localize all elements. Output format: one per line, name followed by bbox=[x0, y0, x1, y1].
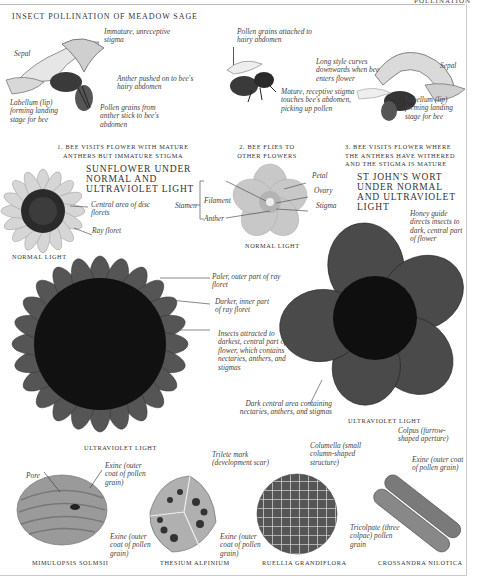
stjohns-heading: ST JOHN'S WORT UNDER NORMAL AND ULTRAVIO… bbox=[357, 172, 467, 212]
label-mimulopsis-pore: Pore bbox=[26, 472, 40, 480]
pollen-crossandra-caption: CROSSANDRA NILOTICA bbox=[378, 559, 463, 568]
label-thesium-exine: Exine (outer coat of pollen grain) bbox=[110, 533, 155, 558]
label-ruellia-exine: Exine (outer coat of pollen grain) bbox=[220, 533, 265, 558]
label-crossandra-tricolpate: Tricolpate (three colpae) pollen grain bbox=[350, 524, 400, 549]
label-crossandra-exine: Exine (outer coat of pollen grain) bbox=[412, 456, 467, 473]
bottom-rule bbox=[0, 575, 467, 576]
pollen-ruellia-image bbox=[255, 472, 339, 556]
pollen-thesium-caption: THESIUM ALPINIUM bbox=[160, 559, 230, 568]
label-labellum-3: Labellum (lip) forming landing stage for… bbox=[405, 96, 455, 121]
sunflower-uv-caption: ULTRAVIOLET LIGHT bbox=[84, 444, 157, 453]
label-paler-ray: Paler, outer part of ray floret bbox=[212, 273, 282, 290]
label-mature-stigma: Mature, receptive stigma touches bee's a… bbox=[281, 88, 356, 113]
label-anther: Anther bbox=[204, 215, 224, 223]
pollen-mimulopsis-caption: MIMULOPSIS SOLMSII bbox=[32, 559, 108, 568]
label-anther-pushed: Anther pushed on to bee's hairy abdomen bbox=[117, 75, 197, 92]
label-sepal-1: Sepal bbox=[14, 50, 30, 58]
label-ray-floret: Ray floret bbox=[92, 227, 121, 235]
label-darker-ray: Darker, inner part of ray floret bbox=[215, 298, 275, 315]
label-pollen-attached: Pollen grains attached to hairy abdomen bbox=[237, 28, 317, 45]
label-immature-stigma: Immature, unreceptive stigma bbox=[104, 28, 184, 45]
label-dark-central-area: Dark central area containing nectaries, … bbox=[224, 400, 332, 417]
caption-step-3: 3. BEE VISITS FLOWER WHERE THE ANTHERS H… bbox=[345, 143, 467, 169]
leader-pollen-attached bbox=[233, 47, 234, 65]
label-long-style: Long style curves downwards when bee ent… bbox=[316, 58, 396, 83]
label-insects-attracted: Insects attracted to darkest, central pa… bbox=[218, 330, 288, 372]
label-thesium-trilete: Trilete mark (development scar) bbox=[212, 451, 282, 468]
stjohns-uv-caption: ULTRAVIOLET LIGHT bbox=[348, 417, 421, 426]
caption-step-2: 2. BEE FLIES TO OTHER FLOWERS bbox=[232, 143, 302, 160]
label-crossandra-colpus: Colpus (furrow-shaped aperture) bbox=[398, 427, 458, 444]
label-labellum-1: Labellum (lip) forming landing stage for… bbox=[10, 99, 60, 124]
section-title: INSECT POLLINATION OF MEADOW SAGE bbox=[12, 12, 198, 21]
label-ovary: Ovary bbox=[314, 187, 332, 195]
label-sepal-3: Sepal bbox=[440, 62, 456, 70]
label-petal: Petal bbox=[312, 172, 328, 180]
label-pollen-grains-stick: Pollen grains from anther stick to bee's… bbox=[100, 104, 170, 129]
label-stigma: Stigma bbox=[316, 202, 337, 210]
label-stamen: Stamen bbox=[175, 202, 197, 210]
label-ruellia-columella: Columella (small column-shaped structure… bbox=[310, 442, 380, 467]
top-rule bbox=[0, 4, 465, 5]
mimulopsis-leaders bbox=[40, 470, 110, 500]
label-disc-florets: Central area of disc florets bbox=[91, 201, 151, 218]
label-filament: Filament bbox=[204, 197, 231, 205]
caption-step-1: 1. BEE VISITS FLOWER WITH MATURE ANTHERS… bbox=[48, 143, 198, 160]
pollen-ruellia-caption: RUELLIA GRANDIFLORA bbox=[262, 559, 347, 568]
